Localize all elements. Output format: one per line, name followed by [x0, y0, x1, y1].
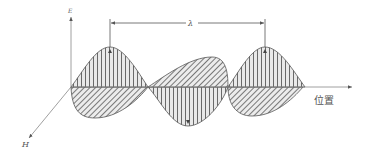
- h-axis-label: H: [21, 140, 30, 149]
- position-axis-label: 位置: [314, 94, 334, 106]
- e-axis-label: E: [67, 7, 73, 14]
- h-axis: [29, 87, 71, 138]
- h-lobe-3: [228, 87, 303, 116]
- wavelength-label: λ: [187, 19, 193, 28]
- h-lobe-1: [71, 87, 148, 118]
- h-lobe-2: [148, 57, 228, 87]
- em-wave-diagram: H E 位置 λ: [0, 0, 373, 149]
